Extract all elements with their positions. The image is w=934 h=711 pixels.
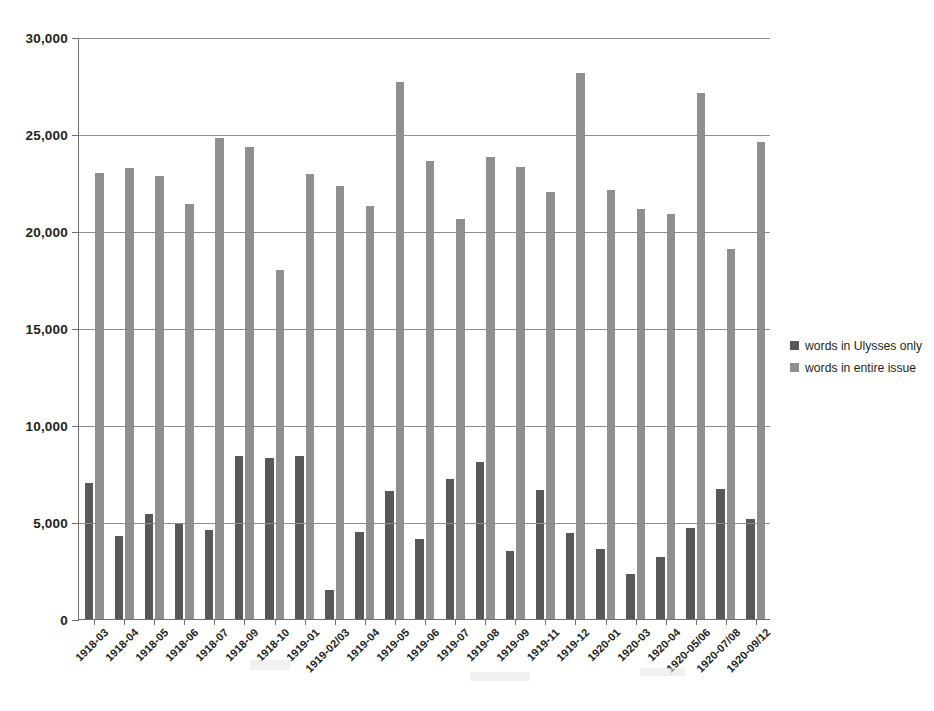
x-axis-tick: [726, 619, 727, 625]
bar[interactable]: [185, 204, 194, 619]
legend-item[interactable]: words in Ulysses only: [790, 336, 934, 355]
bar[interactable]: [245, 147, 254, 619]
y-axis-tick: [72, 523, 79, 524]
y-axis-tick: [72, 620, 79, 621]
bar[interactable]: [446, 479, 455, 619]
x-axis-tick: [545, 619, 546, 625]
bar[interactable]: [336, 186, 345, 619]
bar[interactable]: [727, 249, 736, 619]
bar[interactable]: [295, 456, 304, 619]
bar[interactable]: [366, 206, 375, 619]
y-axis-tick-label: 15,000: [26, 322, 69, 337]
bar[interactable]: [757, 142, 766, 619]
gridline: [79, 38, 770, 39]
chart-legend: words in Ulysses only words in entire is…: [790, 336, 934, 380]
x-axis-tick: [214, 619, 215, 625]
x-axis-tick-label: 1919-09: [494, 626, 532, 664]
bar[interactable]: [235, 456, 244, 619]
bar[interactable]: [637, 209, 646, 619]
bar[interactable]: [396, 82, 405, 619]
legend-item[interactable]: words in entire issue: [790, 358, 934, 377]
x-axis-tick: [425, 619, 426, 625]
bar[interactable]: [306, 174, 315, 619]
bar[interactable]: [325, 590, 334, 619]
x-axis-tick: [756, 619, 757, 625]
bar[interactable]: [125, 168, 134, 619]
legend-swatch-icon: [790, 341, 799, 350]
bar[interactable]: [145, 514, 154, 619]
bar[interactable]: [596, 549, 605, 619]
y-axis-tick: [72, 38, 79, 39]
bar[interactable]: [175, 524, 184, 619]
x-axis-tick: [335, 619, 336, 625]
bar[interactable]: [265, 458, 274, 619]
gridline: [79, 135, 770, 136]
bar[interactable]: [626, 574, 635, 619]
bar[interactable]: [355, 532, 364, 619]
bar[interactable]: [426, 161, 435, 619]
bar[interactable]: [95, 173, 104, 619]
bar[interactable]: [276, 270, 285, 619]
y-axis-tick: [72, 426, 79, 427]
bar[interactable]: [546, 192, 555, 619]
x-axis-tick: [455, 619, 456, 625]
legend-swatch-icon: [790, 363, 799, 372]
y-axis-tick: [72, 329, 79, 330]
bar[interactable]: [716, 489, 725, 619]
gridline: [79, 523, 770, 524]
bar[interactable]: [476, 462, 485, 619]
x-axis-tick: [94, 619, 95, 625]
x-axis-tick: [515, 619, 516, 625]
x-axis-tick: [184, 619, 185, 625]
bar[interactable]: [385, 491, 394, 619]
gridline: [79, 426, 770, 427]
bar[interactable]: [456, 219, 465, 619]
bar[interactable]: [155, 176, 164, 619]
bar[interactable]: [115, 536, 124, 619]
bar[interactable]: [486, 157, 495, 619]
bar[interactable]: [667, 214, 676, 619]
bar[interactable]: [697, 93, 706, 619]
x-axis-tick: [305, 619, 306, 625]
bar[interactable]: [566, 533, 575, 619]
bar[interactable]: [85, 483, 94, 619]
y-axis-tick-label: 25,000: [26, 128, 69, 143]
bar[interactable]: [506, 551, 515, 619]
x-axis-tick-label: 1919-12: [554, 626, 592, 664]
x-axis-tick-label: 1918-09: [223, 626, 261, 664]
x-axis-tick: [124, 619, 125, 625]
x-axis-tick-label: 1918-10: [254, 626, 292, 664]
bar[interactable]: [746, 519, 755, 619]
x-axis-tick: [395, 619, 396, 625]
x-axis-tick: [575, 619, 576, 625]
legend-label: words in entire issue: [805, 361, 916, 375]
bar[interactable]: [576, 73, 585, 619]
x-axis-tick: [244, 619, 245, 625]
y-axis-tick: [72, 232, 79, 233]
x-axis-tick: [275, 619, 276, 625]
gridline: [79, 329, 770, 330]
bar[interactable]: [536, 490, 545, 619]
x-axis-tick: [666, 619, 667, 625]
bar[interactable]: [215, 138, 224, 619]
bar[interactable]: [516, 167, 525, 619]
x-axis-tick: [365, 619, 366, 625]
bar[interactable]: [205, 530, 214, 619]
plot-area: 05,00010,00015,00020,00025,00030,000: [78, 38, 770, 620]
x-axis-tick: [636, 619, 637, 625]
bar[interactable]: [686, 528, 695, 619]
x-axis-tick: [485, 619, 486, 625]
bar[interactable]: [656, 557, 665, 619]
y-axis-tick-label: 30,000: [26, 31, 69, 46]
bar[interactable]: [415, 539, 424, 620]
legend-label: words in Ulysses only: [805, 339, 922, 353]
bar-chart: 05,00010,00015,00020,00025,00030,000 191…: [0, 0, 934, 711]
y-axis-tick-label: 10,000: [26, 419, 69, 434]
x-axis-tick: [606, 619, 607, 625]
y-axis-tick-label: 20,000: [26, 225, 69, 240]
x-axis-labels: 1918-031918-041918-051918-061918-071918-…: [78, 626, 770, 711]
y-axis-tick: [72, 135, 79, 136]
bar[interactable]: [607, 190, 616, 619]
x-axis-tick: [154, 619, 155, 625]
y-axis-tick-label: 0: [60, 613, 68, 628]
